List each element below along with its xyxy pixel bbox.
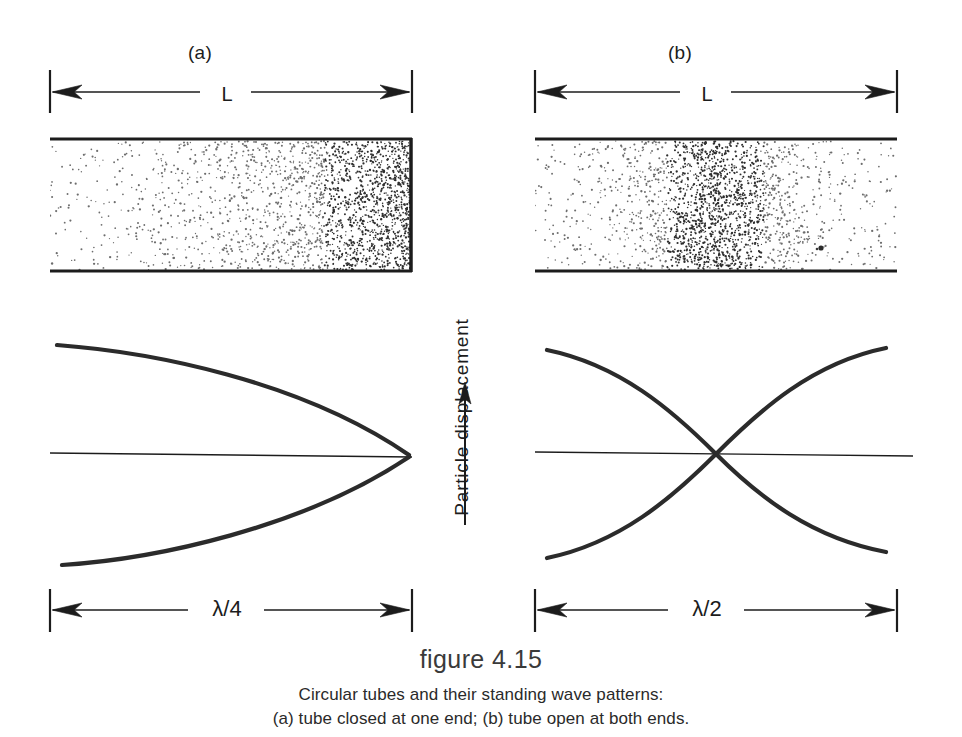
wave-a-lower-envelope [62,457,409,565]
wave-a-zero-axis [50,453,412,457]
figure-caption: figure 4.15 Circular tubes and their sta… [0,645,962,731]
figure-number: figure 4.15 [0,645,962,674]
wave-pattern-b [535,348,913,558]
particle-displacement-label: Particle displacement [451,302,473,532]
tube-a-length-label: L [203,83,251,106]
wave-pattern-a [50,345,412,565]
figure-drawing [0,0,962,737]
caption-line-1: Circular tubes and their standing wave p… [0,683,962,707]
scan-artifact-mark [818,245,823,250]
tube-b-wavelength-label: λ/2 [670,596,744,622]
figure-container: (a) (b) [0,0,962,737]
tube-a [49,138,412,272]
tube-a-wavelength-label: λ/4 [190,596,264,622]
wave-b-zero-axis [535,452,913,456]
wave-a-upper-envelope [57,345,409,455]
caption-line-2: (a) tube closed at one end; (b) tube ope… [0,707,962,731]
tube-b-length-label: L [683,83,731,106]
tube-b [534,139,897,271]
tube-b-gas-particles [534,140,897,271]
particle-displacement-axis: Particle displacement [425,310,465,540]
tube-a-gas-particles [49,140,412,271]
